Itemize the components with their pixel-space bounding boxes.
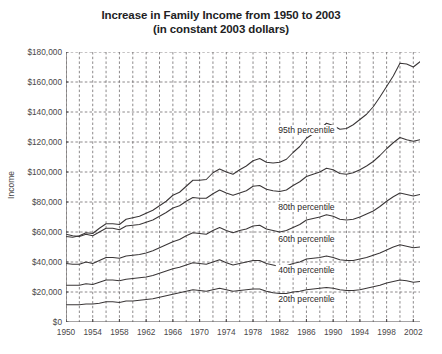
series-label-2: 80th percentile	[276, 202, 336, 212]
chart-container: Increase in Family Income from 1950 to 2…	[0, 0, 442, 354]
series-label-4: 40th percentile	[276, 265, 336, 275]
series-inline-labels: 95th percentile80th percentile60th perce…	[0, 0, 442, 354]
series-label-5: 20th percentile	[276, 294, 336, 304]
series-label-3: 60th percentile	[276, 234, 336, 244]
series-label-1: 95th percentile	[276, 125, 336, 135]
